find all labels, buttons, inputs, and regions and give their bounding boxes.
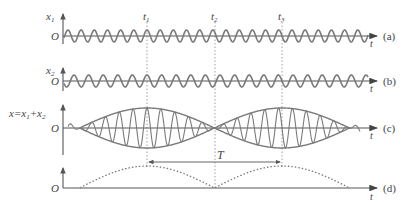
t3-label: t3 [278,10,285,24]
panel-tag-a: (a) [383,30,396,43]
labels: x1 O (a) t x2 O (b) t x=x1+x2 O (c) t O … [8,10,396,202]
panel-tag-d: (d) [383,182,396,195]
panel-tag-b: (b) [383,75,396,88]
time-marker-lines [147,22,282,188]
origin-label-d: O [51,182,59,194]
t-axis-label-b: t [370,83,373,94]
t2-label: t2 [211,10,218,24]
sum-axis-label: x=x1+x2 [8,107,46,121]
t-axis-label-c: t [370,130,373,141]
origin-label-c: O [51,122,59,134]
panel-tag-c: (c) [383,122,396,135]
t1-label: t1 [143,10,150,24]
x1-axis-label: x1 [45,10,54,24]
beats-diagram: x1 O (a) t x2 O (b) t x=x1+x2 O (c) t O … [0,0,405,213]
t-axis-label-d: t [370,191,373,202]
period-label: T [217,148,225,162]
waveforms [64,30,368,188]
origin-label-b: O [51,75,59,87]
t-axis-label-a: t [370,38,373,49]
origin-label-a: O [51,30,59,42]
